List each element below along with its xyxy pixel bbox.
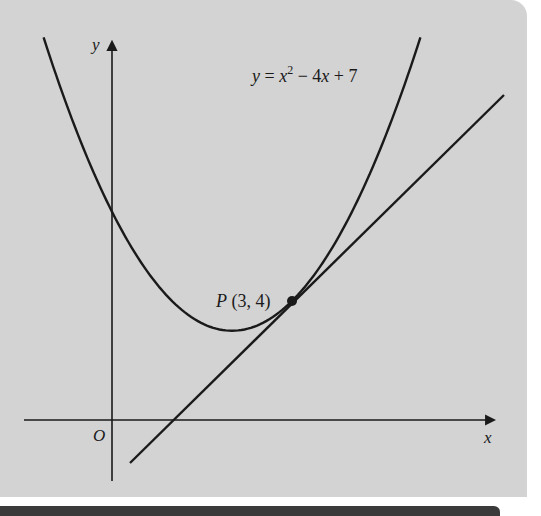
x-axis-label: x bbox=[483, 428, 492, 447]
origin-label: O bbox=[93, 426, 105, 445]
point-p-marker bbox=[287, 296, 297, 306]
parabola-curve bbox=[44, 37, 421, 330]
tangent-line bbox=[130, 95, 504, 463]
y-axis-label: y bbox=[90, 35, 100, 54]
curve-equation-label: y = x2 − 4x + 7 bbox=[250, 63, 357, 86]
point-p-label: P (3, 4) bbox=[215, 291, 271, 312]
